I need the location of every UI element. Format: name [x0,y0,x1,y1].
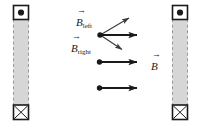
diagram-canvas [0,0,202,129]
b-left-subscript: left [83,22,92,30]
b-left-label: → Bleft [76,13,92,30]
vector-row-middle [97,59,137,64]
right-conductor-body [173,19,188,105]
b-right-subscript: right [78,48,91,56]
b-total-label: → B [151,57,158,74]
left-conductor-bottom-terminal [14,105,29,120]
b-right-label: → Bright [71,39,91,56]
b-right-vector [101,36,122,50]
field-point-top [97,32,102,37]
right-conductor-top-terminal [173,6,188,20]
left-conductor [14,6,29,120]
left-conductor-top-terminal [14,6,29,20]
magnetic-field-diagram: → Bleft → Bright → B [0,0,202,129]
vector-arrow-accent-icon: → [152,50,161,59]
vector-fan-top [97,18,137,50]
field-point-bottom [97,85,102,90]
current-out-of-page-dot-icon [177,9,183,15]
b-total-symbol: B [151,60,158,72]
left-conductor-body [14,19,29,105]
right-conductor-bottom-terminal [173,105,188,120]
field-point-middle [97,59,102,64]
vector-arrow-accent-icon: → [77,6,86,15]
vector-row-bottom [97,85,137,90]
b-left-vector [101,18,129,35]
current-out-of-page-dot-icon [18,9,24,15]
b-right-symbol: B [71,42,78,54]
right-conductor [173,6,188,120]
b-left-symbol: B [76,16,83,28]
vector-arrow-accent-icon: → [72,32,81,41]
